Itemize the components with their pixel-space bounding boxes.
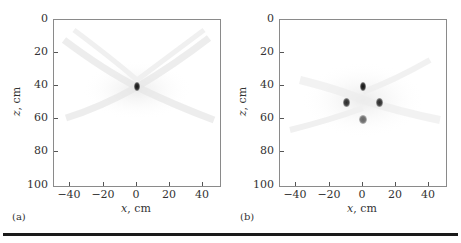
panel-label-a: (a) [12, 211, 26, 222]
ytick-label: 100 [24, 179, 48, 191]
xtick-mark [428, 182, 429, 186]
xtick-mark [136, 182, 137, 186]
x-axis-title: x, cm [322, 202, 402, 215]
xtick-label: 0 [121, 189, 151, 201]
xtick-mark [295, 182, 296, 186]
xtick-mark [69, 182, 70, 186]
xtick-label: −40 [280, 189, 310, 201]
point-source-neg10-50 [343, 98, 350, 107]
ytick-label: 0 [250, 13, 274, 25]
xtick-label: 40 [187, 189, 217, 201]
xtick-mark [329, 182, 330, 186]
y-axis-unit: , cm [236, 87, 249, 111]
ytick-label: 0 [24, 13, 48, 25]
ytick-mark [54, 151, 58, 152]
xtick-mark [395, 182, 396, 186]
ytick-label: 100 [250, 179, 274, 191]
artifact-haze-b [280, 20, 446, 186]
point-source-0-60 [359, 115, 367, 124]
ytick-label: 40 [24, 79, 48, 91]
xtick-mark [202, 182, 203, 186]
y-axis-var: z [236, 110, 249, 116]
panel-label-b: (b) [240, 211, 254, 222]
panel-a: 0 20 40 60 80 100 −40 −20 0 20 40 x, cm … [0, 0, 230, 225]
ytick-mark [280, 151, 284, 152]
ytick-label: 20 [24, 46, 48, 58]
plot-area-a [53, 19, 221, 187]
ytick-label: 60 [250, 112, 274, 124]
y-axis-unit: , cm [10, 87, 23, 111]
ytick-label: 20 [250, 46, 274, 58]
ytick-label: 80 [24, 145, 48, 157]
ytick-mark [280, 85, 284, 86]
y-axis-title: z, cm [10, 72, 23, 132]
ytick-mark [280, 52, 284, 53]
xtick-mark [103, 182, 104, 186]
ytick-mark [54, 118, 58, 119]
xtick-label: −20 [314, 189, 344, 201]
y-axis-title: z, cm [236, 72, 249, 132]
xtick-label: 20 [154, 189, 184, 201]
ytick-mark [54, 52, 58, 53]
x-axis-title: x, cm [96, 202, 176, 215]
xtick-mark [362, 182, 363, 186]
panel-b: 0 20 40 60 80 100 −40 −20 0 20 40 x, cm … [230, 0, 460, 225]
ytick-label: 40 [250, 79, 274, 91]
artifact-streaks-a [54, 20, 220, 186]
ytick-mark [280, 118, 284, 119]
xtick-label: −20 [88, 189, 118, 201]
xtick-mark [169, 182, 170, 186]
point-source-0-40 [134, 82, 140, 91]
ytick-label: 80 [250, 145, 274, 157]
point-source-0-40 [360, 82, 366, 91]
xtick-label: 40 [413, 189, 443, 201]
xtick-label: −40 [54, 189, 84, 201]
figure-bottom-rule [3, 233, 458, 236]
xtick-label: 0 [347, 189, 377, 201]
y-axis-var: z [10, 110, 23, 116]
xtick-label: 20 [380, 189, 410, 201]
plot-area-b [279, 19, 447, 187]
ytick-mark [54, 85, 58, 86]
ytick-label: 60 [24, 112, 48, 124]
x-axis-unit: , cm [353, 202, 377, 215]
x-axis-unit: , cm [127, 202, 151, 215]
point-source-10-50 [376, 98, 383, 107]
